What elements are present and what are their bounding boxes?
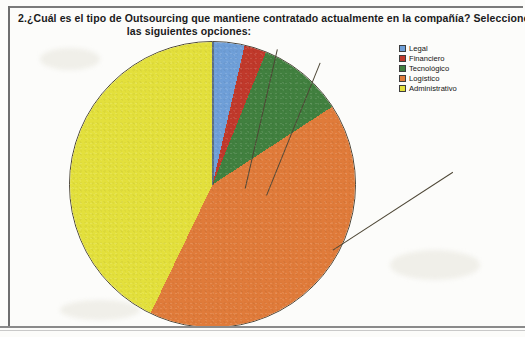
legend-color-swatch [399,85,406,92]
legend-color-swatch [399,75,406,82]
figure-frame-bottom [0,326,525,328]
pie-outline [69,41,356,328]
legend-item: Administrativo [399,84,509,94]
legend-item-label: Tecnológico [409,64,449,73]
figure-frame-left [8,6,10,326]
pie-chart [69,41,356,328]
chart-title-line-2: las siguientes opciones: [14,25,524,38]
legend-color-swatch [399,45,406,52]
legend-item: Tecnológico [399,64,509,74]
legend-color-swatch [399,65,406,72]
chart-title-line-1: 2.¿Cuál es el tipo de Outsourcing que ma… [14,12,524,25]
figure-frame-top [8,6,523,8]
legend-item-label: Administrativo [409,84,457,93]
legend-item: Logístico [399,74,509,84]
scanned-figure-screenshot: 2.¿Cuál es el tipo de Outsourcing que ma… [0,0,525,337]
legend-item-label: Legal [409,44,428,53]
chart-title: 2.¿Cuál es el tipo de Outsourcing que ma… [14,12,524,37]
legend-item-label: Logístico [409,74,439,83]
legend-item: Financiero [399,54,509,64]
pie-slice-divider [212,42,213,185]
legend-item-label: Financiero [409,54,444,63]
legend-item: Legal [399,44,509,54]
figure-frame-bottom-secondary [0,330,525,331]
chart-legend: LegalFinancieroTecnológicoLogísticoAdmin… [399,44,509,94]
legend-color-swatch [399,55,406,62]
